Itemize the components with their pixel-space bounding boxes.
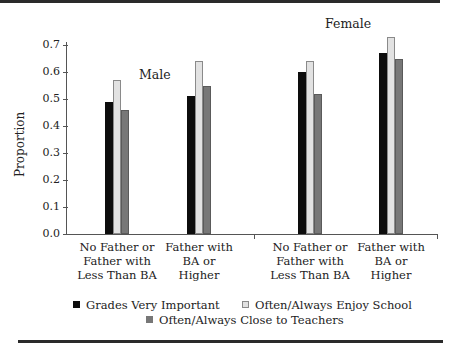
y-tick-label: 0.5 [30,92,60,105]
bar [121,110,129,234]
legend-swatch-light [242,301,249,308]
bar [195,61,203,234]
bar [314,94,322,234]
bar [187,96,195,234]
y-tick [63,72,68,73]
y-tick [63,99,68,100]
bar [298,72,306,234]
y-tick [63,207,68,208]
y-tick-label: 0.7 [30,38,60,51]
legend-item-teachers: Often/Always Close to Teachers [146,313,344,327]
bar [113,80,121,234]
y-tick-label: 0.0 [30,227,60,240]
x-category-label: Father with BA or Higher [144,240,254,282]
y-tick [63,153,68,154]
bar [306,61,314,234]
y-tick-label: 0.4 [30,119,60,132]
legend-item-grades: Grades Very Important [73,298,220,312]
bottom-rule [18,340,443,343]
top-rule [0,0,440,3]
bar [387,37,395,234]
x-group-divider-tick [254,234,255,239]
y-tick-label: 0.2 [30,173,60,186]
x-end-tick [437,234,438,239]
y-tick [63,45,68,46]
group-label-female: Female [325,16,371,31]
y-tick [63,126,68,127]
y-tick-label: 0.6 [30,65,60,78]
legend-swatch-black [73,301,80,308]
legend-item-enjoy: Often/Always Enjoy School [242,298,412,312]
bar [105,102,113,234]
group-label-male: Male [139,67,171,82]
y-axis-label: Proportion [13,117,27,177]
legend-swatch-gray [146,316,153,323]
bar [379,53,387,234]
bar [203,86,211,235]
y-tick-label: 0.3 [30,146,60,159]
y-tick [63,234,68,235]
y-tick [63,180,68,181]
bar [395,59,403,235]
x-category-label: Father with BA or Higher [336,240,446,282]
x-axis [66,234,438,235]
y-tick-label: 0.1 [30,200,60,213]
